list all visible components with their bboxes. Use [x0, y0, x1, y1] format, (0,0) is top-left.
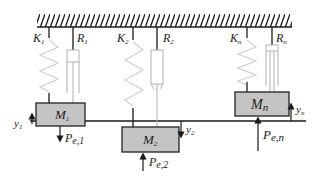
ceiling-hatching [37, 14, 292, 27]
unit-1: M1 K1 R1 y1 Pe,1 [13, 27, 88, 146]
damper-1-label: R1 [76, 31, 88, 46]
damper-n-label: Rn [275, 31, 287, 46]
unit-2: M2 K2 R2 y2 Pe,2 [116, 27, 195, 171]
spring-1-label: K1 [32, 31, 45, 46]
force-1-label: Pe,1 [64, 131, 84, 146]
damper-2 [151, 27, 163, 127]
spring-damper-diagram: M1 K1 R1 y1 Pe,1 M2 K2 R2 y2 [0, 0, 322, 180]
spring-n [238, 27, 256, 92]
spring-n-label: Kn [229, 31, 242, 46]
spring-2-label: K2 [116, 31, 129, 46]
displacement-1-label: y1 [13, 117, 22, 131]
force-2-label: Pe,2 [148, 155, 168, 170]
displacement-n-label: yn [295, 103, 305, 117]
damper-2-label: R2 [162, 31, 174, 46]
unit-n: Mn Kn Rn yn Pe,n [229, 27, 305, 151]
force-n-label: Pe,n [262, 127, 285, 143]
ceiling-support [37, 14, 292, 27]
displacement-2-label: y2 [185, 123, 195, 137]
